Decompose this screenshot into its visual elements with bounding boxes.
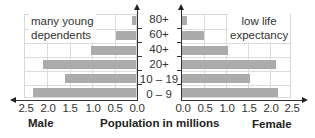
male-x-tick: 2.5 <box>18 102 33 114</box>
y-tick <box>177 70 182 71</box>
female-y-axis <box>181 8 182 100</box>
male-x-tick: 1.5 <box>62 102 77 114</box>
male-x-tick: 0.5 <box>107 102 122 114</box>
male-bar-0-9 <box>33 88 136 97</box>
female-x-tick: 2.5 <box>284 102 299 114</box>
male-bar-60plus <box>116 31 136 40</box>
male-bar-10-19 <box>65 74 136 83</box>
female-x-tick: 1.5 <box>241 102 256 114</box>
male-bar-40plus <box>91 46 136 55</box>
gridline <box>25 57 136 58</box>
age-label-80plus: 80+ <box>137 13 181 25</box>
female-x-tick: 0.0 <box>175 102 190 114</box>
arrow-left-icon <box>10 97 16 103</box>
male-x-tick: 0.0 <box>129 102 144 114</box>
female-x-tick: 1.0 <box>219 102 234 114</box>
female-bar-40plus <box>182 46 228 55</box>
y-tick <box>137 56 142 57</box>
male-x-tick: 1.0 <box>85 102 100 114</box>
age-label-0-9: 0 – 9 <box>137 88 181 100</box>
female-bar-60plus <box>182 31 204 40</box>
gridline <box>182 57 290 58</box>
y-tick <box>177 56 182 57</box>
female-bar-10-19 <box>182 74 250 83</box>
gridline <box>182 71 290 72</box>
female-x-tick: 0.5 <box>197 102 212 114</box>
x-axis-title: Population in millions <box>100 117 219 129</box>
male-annotation-line1: many young <box>31 14 94 28</box>
gridline <box>182 43 290 44</box>
arrow-right-icon <box>302 97 308 103</box>
arrow-up-icon <box>178 4 184 10</box>
age-label-20plus: 20+ <box>137 58 181 70</box>
gridline <box>182 85 290 86</box>
male-x-axis <box>14 100 138 101</box>
gridline <box>25 71 136 72</box>
gridline <box>25 85 136 86</box>
age-label-60plus: 60+ <box>137 28 181 40</box>
female-bar-0-9 <box>182 88 278 97</box>
age-label-10-19: 10 – 19 <box>137 73 181 85</box>
male-bar-80plus <box>132 16 136 25</box>
female-label: Female <box>252 118 292 130</box>
male-label: Male <box>28 117 54 129</box>
arrow-up-icon <box>134 4 140 10</box>
female-annotation-line2: expectancy <box>230 28 288 42</box>
male-annotation-line2: dependents <box>31 28 94 42</box>
female-x-tick: 2.0 <box>263 102 278 114</box>
female-x-axis <box>181 100 303 101</box>
y-tick <box>137 70 142 71</box>
male-annotation: many young dependents <box>29 14 96 42</box>
female-annotation-line1: low life <box>230 14 288 28</box>
female-annotation: low life expectancy <box>228 14 290 42</box>
male-x-tick: 2.0 <box>40 102 55 114</box>
age-label-40plus: 40+ <box>137 43 181 55</box>
male-bar-20plus <box>43 60 136 69</box>
female-bar-80plus <box>182 16 187 25</box>
gridline <box>25 43 136 44</box>
female-bar-20plus <box>182 60 276 69</box>
